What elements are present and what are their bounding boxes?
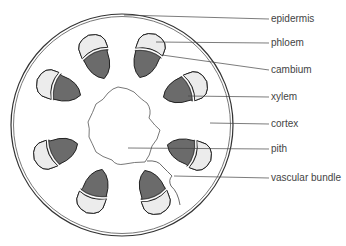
label-cortex: cortex bbox=[271, 118, 298, 130]
label-epidermis: epidermis bbox=[271, 13, 314, 25]
label-xylem: xylem bbox=[271, 91, 297, 103]
epidermis-outer bbox=[11, 14, 233, 236]
label-vascular-bundle: vascular bundle bbox=[271, 172, 341, 184]
label-phloem: phloem bbox=[271, 37, 304, 49]
label-cambium: cambium bbox=[271, 64, 312, 76]
label-pith: pith bbox=[271, 143, 287, 155]
